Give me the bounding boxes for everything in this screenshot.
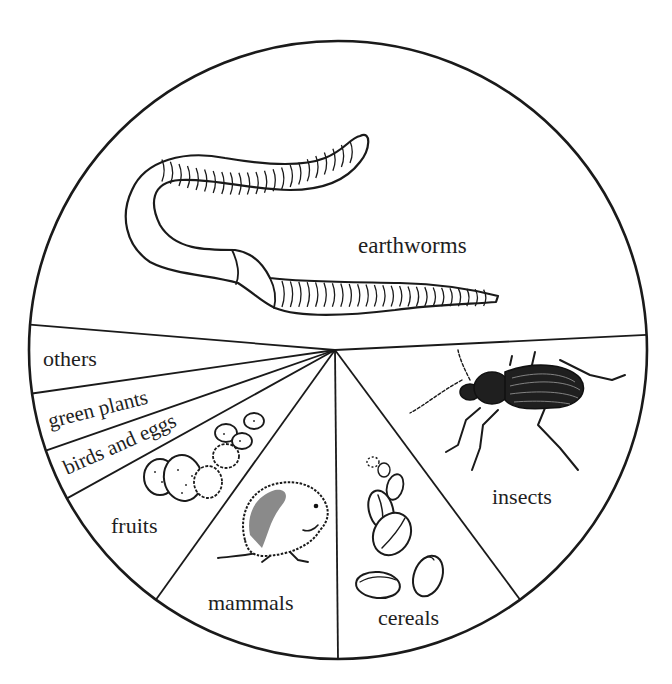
slice-boundary-insects [335, 335, 647, 350]
label-fruits: fruits [111, 513, 157, 538]
label-insects: insects [492, 484, 552, 509]
earthworm-icon [126, 135, 498, 315]
diet-pie-chart: earthworms insects cereals mammals fruit… [0, 0, 672, 684]
label-mammals: mammals [208, 590, 294, 615]
beetle-icon [410, 350, 625, 470]
slice-boundary-mammals [335, 350, 338, 659]
cereal-grain-icon [355, 457, 448, 601]
label-others: others [43, 346, 97, 371]
label-earthworms: earthworms [358, 233, 467, 258]
vole-icon [218, 482, 328, 562]
label-cereals: cereals [378, 605, 439, 630]
